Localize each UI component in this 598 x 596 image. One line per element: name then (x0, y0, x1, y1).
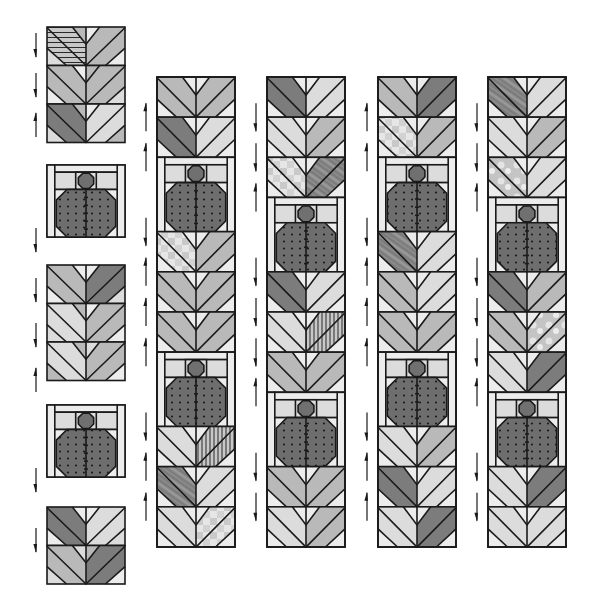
bug-head (78, 173, 93, 188)
side-border-left (157, 157, 165, 231)
chevron-row (267, 312, 345, 352)
top-border (165, 352, 227, 359)
column-5 (488, 77, 566, 547)
arrow-down-icon (474, 338, 478, 367)
chevron-row (157, 467, 235, 507)
chevron-row (157, 232, 235, 272)
arrow-down-icon (253, 258, 257, 287)
ladybug-block (378, 157, 456, 231)
side-border-right (227, 157, 235, 231)
ladybug-block (47, 165, 125, 237)
side-border-left (488, 392, 496, 466)
side-border-right (558, 392, 566, 466)
bug-head (298, 206, 314, 222)
top-border (275, 392, 337, 399)
chevron-row (157, 426, 235, 466)
chevron-row (47, 265, 125, 304)
arrow-up-icon (364, 102, 368, 131)
top-border (496, 392, 558, 399)
arrow-down-icon (474, 103, 478, 132)
arrow-up-icon (143, 492, 147, 521)
chevron-row (157, 507, 235, 547)
bug-head (78, 413, 93, 428)
chevron-row (488, 157, 566, 197)
chevron-row (378, 232, 456, 272)
chevron-row (157, 312, 235, 352)
top-border (55, 165, 117, 172)
arrow-down-icon (33, 323, 37, 348)
arrow-down-icon (253, 338, 257, 367)
arrow-down-icon (253, 493, 257, 522)
arrow-down-icon (253, 103, 257, 132)
side-border-right (337, 392, 345, 466)
chevron-row (47, 507, 125, 546)
chevron-row (488, 467, 566, 507)
ladybug-block (47, 405, 125, 477)
top-border (165, 157, 227, 164)
arrow-down-icon (33, 228, 37, 253)
arrow-up-icon (474, 183, 478, 212)
chevron-row (378, 507, 456, 547)
arrow-down-icon (474, 493, 478, 522)
chevron-row (267, 467, 345, 507)
arrow-up-icon (364, 297, 368, 326)
ladybug-block (378, 352, 456, 426)
chevron-row (267, 117, 345, 157)
chevron-row (157, 272, 235, 312)
chevron-row (378, 117, 456, 157)
chevron-row (157, 77, 235, 117)
chevron-row (488, 77, 566, 117)
top-border (496, 198, 558, 205)
arrow-down-icon (253, 143, 257, 172)
bug-head (298, 401, 314, 417)
left-column-blocks (47, 27, 125, 584)
side-border-right (117, 165, 125, 237)
side-border-right (448, 352, 456, 426)
side-border-left (267, 392, 275, 466)
chevron-row (47, 104, 125, 143)
side-border-left (157, 352, 165, 426)
chevron-row (378, 77, 456, 117)
side-border-right (227, 352, 235, 426)
chevron-row (488, 272, 566, 312)
chevron-row (47, 27, 125, 66)
side-border-right (448, 157, 456, 231)
side-border-left (378, 352, 386, 426)
arrow-down-icon (253, 453, 257, 482)
arrow-up-icon (364, 492, 368, 521)
arrow-up-icon (33, 112, 37, 137)
side-border-left (378, 157, 386, 231)
side-border-left (488, 198, 496, 272)
chevron-row (378, 272, 456, 312)
arrow-up-icon (143, 452, 147, 481)
bug-head (409, 361, 425, 377)
top-border (386, 352, 448, 359)
chevron-row (488, 507, 566, 547)
quilt-canvas (0, 0, 598, 596)
arrow-down-icon (364, 218, 368, 247)
chevron-row (378, 467, 456, 507)
side-border-right (558, 198, 566, 272)
side-border-left (47, 165, 55, 237)
arrow-down-icon (33, 468, 37, 493)
bug-head (188, 361, 204, 377)
column-4 (378, 77, 456, 547)
chevron-row (47, 546, 125, 585)
chevron-row (488, 117, 566, 157)
chevron-row (267, 77, 345, 117)
chevron-row (267, 157, 345, 197)
chevron-row (47, 342, 125, 381)
side-border-right (117, 405, 125, 477)
chevron-row (47, 66, 125, 105)
bug-head (519, 206, 535, 222)
quilt-assembly-diagram (0, 0, 598, 596)
chevron-row (157, 117, 235, 157)
arrow-down-icon (33, 33, 37, 58)
top-border (55, 405, 117, 412)
arrow-up-icon (143, 337, 147, 366)
arrow-up-icon (364, 257, 368, 286)
arrow-down-icon (474, 298, 478, 327)
arrow-up-icon (253, 377, 257, 406)
assembled-columns (157, 77, 566, 547)
arrow-down-icon (143, 412, 147, 441)
